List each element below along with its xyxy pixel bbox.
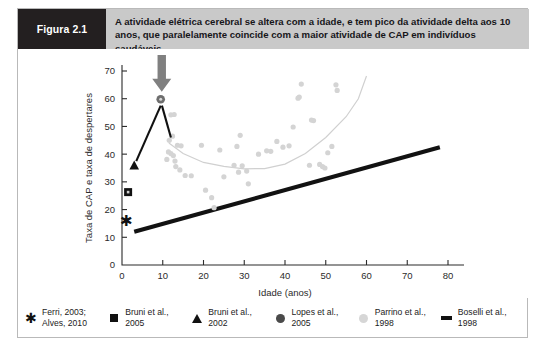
data-point bbox=[299, 81, 304, 86]
data-point bbox=[322, 165, 327, 170]
x-tick-label: 70 bbox=[402, 270, 413, 281]
y-tick-label: 60 bbox=[104, 93, 115, 104]
legend-item: Boselli et al., 1998 bbox=[440, 307, 523, 329]
y-axis-title: Taxa de CAP e taxa de despertares bbox=[83, 93, 94, 243]
data-point bbox=[325, 150, 330, 155]
leader-line bbox=[162, 106, 171, 138]
circle-dark-marker-icon bbox=[274, 311, 287, 325]
legend-item-label: Bruni et al., 2005 bbox=[125, 307, 168, 329]
data-point bbox=[211, 205, 216, 210]
data-point bbox=[172, 112, 177, 117]
data-point bbox=[209, 195, 214, 200]
chart-legend: ✱ Ferri, 2003; Alves, 2010 Bruni et al.,… bbox=[18, 298, 529, 338]
data-point bbox=[268, 149, 273, 154]
legend-item: Bruni et al., 2002 bbox=[190, 307, 273, 329]
data-point bbox=[177, 167, 182, 172]
data-point bbox=[189, 173, 194, 178]
legend-item: Parrino et al., 1998 bbox=[357, 307, 440, 329]
legend-item-label: Boselli et al., 1998 bbox=[458, 307, 507, 329]
figure-number-tag: Figura 2.1 bbox=[18, 9, 106, 49]
data-point bbox=[240, 163, 245, 168]
lopes-data-point-center bbox=[159, 98, 162, 101]
data-point bbox=[171, 153, 176, 158]
data-point bbox=[178, 143, 183, 148]
data-point bbox=[274, 139, 279, 144]
data-point bbox=[173, 164, 178, 169]
data-point bbox=[244, 168, 249, 173]
data-point bbox=[231, 163, 236, 168]
x-tick-label: 30 bbox=[239, 270, 250, 281]
data-point bbox=[203, 188, 208, 193]
data-point bbox=[291, 124, 296, 129]
data-point bbox=[335, 88, 340, 93]
leader-line bbox=[136, 106, 160, 161]
figure-banner: Figura 2.1 A atividade elétrica cerebral… bbox=[18, 9, 529, 49]
figure-container: Figura 2.1 A atividade elétrica cerebral… bbox=[17, 8, 528, 338]
legend-item-label: Ferri, 2003; Alves, 2010 bbox=[42, 307, 87, 329]
data-point bbox=[199, 143, 204, 148]
line-marker-icon bbox=[440, 311, 453, 325]
data-point bbox=[333, 82, 338, 87]
legend-item-label: Parrino et al., 1998 bbox=[375, 307, 426, 329]
triangle-marker-icon bbox=[190, 311, 203, 325]
star-marker-icon: ✱ bbox=[24, 311, 37, 325]
data-point bbox=[280, 145, 285, 150]
y-tick-label: 0 bbox=[110, 259, 115, 270]
y-tick-label: 40 bbox=[104, 149, 115, 160]
data-point bbox=[246, 181, 251, 186]
legend-item: Bruni et al., 2005 bbox=[107, 307, 190, 329]
data-point bbox=[256, 152, 261, 157]
circle-light-marker-icon bbox=[357, 311, 370, 325]
x-tick-label: 60 bbox=[361, 270, 372, 281]
chart-axes bbox=[122, 65, 464, 265]
x-tick-label: 20 bbox=[198, 270, 209, 281]
data-point bbox=[217, 147, 222, 152]
bruni2002-data-point bbox=[129, 161, 139, 170]
y-tick-label: 50 bbox=[104, 121, 115, 132]
legend-item-label: Lopes et al., 2005 bbox=[292, 307, 339, 329]
y-tick-label: 20 bbox=[104, 204, 115, 215]
scatter-chart: 01020304050607001020304050607080Idade (a… bbox=[18, 49, 529, 298]
down-arrow-icon bbox=[152, 55, 171, 92]
plot-area: 01020304050607001020304050607080Idade (a… bbox=[18, 49, 529, 298]
legend-item-label: Bruni et al., 2002 bbox=[208, 307, 251, 329]
data-point bbox=[286, 143, 291, 148]
data-point bbox=[167, 138, 172, 143]
y-tick-label: 70 bbox=[104, 65, 115, 76]
data-point bbox=[221, 174, 226, 179]
bruni2005-point-center bbox=[127, 191, 130, 194]
x-tick-label: 40 bbox=[280, 270, 291, 281]
data-point bbox=[164, 157, 169, 162]
legend-item: ✱ Ferri, 2003; Alves, 2010 bbox=[24, 307, 107, 329]
data-point bbox=[311, 118, 316, 123]
data-point bbox=[172, 158, 177, 163]
x-axis-title: Idade (anos) bbox=[258, 287, 311, 298]
data-point bbox=[234, 144, 239, 149]
square-marker-icon bbox=[107, 311, 120, 325]
y-tick-label: 10 bbox=[104, 232, 115, 243]
ferri-data-point: ✱ bbox=[120, 212, 133, 229]
y-tick-label: 30 bbox=[104, 176, 115, 187]
x-tick-label: 50 bbox=[320, 270, 331, 281]
data-point bbox=[236, 170, 241, 175]
data-point bbox=[183, 173, 188, 178]
figure-caption: A atividade elétrica cerebral se altera … bbox=[106, 9, 529, 49]
data-point bbox=[329, 144, 334, 149]
x-tick-label: 10 bbox=[157, 270, 168, 281]
data-point bbox=[238, 133, 243, 138]
x-tick-label: 80 bbox=[443, 270, 454, 281]
x-tick-label: 0 bbox=[119, 270, 124, 281]
data-point bbox=[307, 163, 312, 168]
legend-item: Lopes et al., 2005 bbox=[274, 307, 357, 329]
boselli-regression-line bbox=[134, 147, 440, 232]
data-point bbox=[295, 96, 300, 101]
